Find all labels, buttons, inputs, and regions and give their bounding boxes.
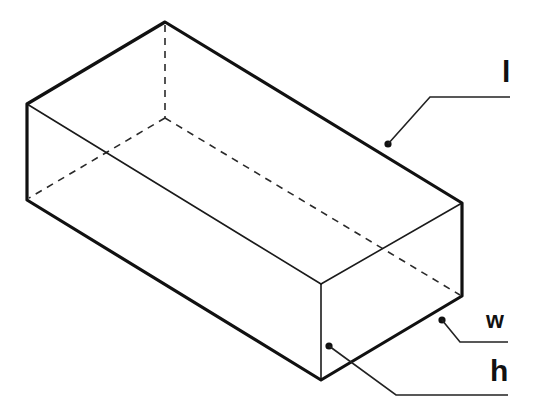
cuboid-outline <box>27 22 462 380</box>
inner-edge-left-top <box>27 104 321 284</box>
height-label: h <box>490 354 508 387</box>
width-label: w <box>485 307 504 333</box>
length-label: l <box>502 55 510 88</box>
length-callout: l <box>384 55 510 148</box>
hidden-edge-right <box>165 118 460 295</box>
height-leader-line <box>329 346 508 395</box>
width-callout: w <box>438 307 508 342</box>
cuboid-dimensions-diagram: l w h <box>0 0 537 419</box>
inner-edges <box>27 104 462 380</box>
inner-edge-right-top <box>321 203 462 284</box>
height-callout: h <box>325 342 508 395</box>
hidden-edge-left <box>29 118 165 198</box>
length-leader-line <box>388 97 510 144</box>
